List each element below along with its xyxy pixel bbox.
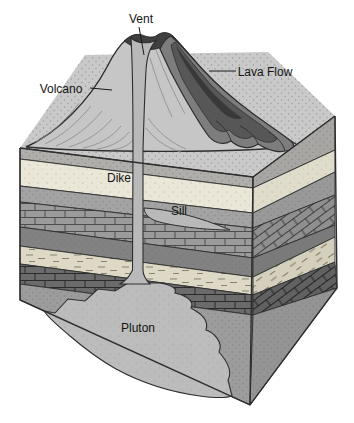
- vent-label: Vent: [129, 12, 154, 26]
- volcano-diagram: Vent Lava Flow Volcano Dike Sill Pluton: [0, 0, 354, 423]
- dike-label: Dike: [107, 171, 131, 185]
- diagram-canvas: Vent Lava Flow Volcano Dike Sill Pluton: [0, 0, 354, 423]
- volcano-label: Volcano: [40, 82, 83, 96]
- sill-label: Sill: [171, 204, 187, 218]
- pluton-label: Pluton: [121, 321, 155, 335]
- lava-flow-label: Lava Flow: [238, 65, 293, 79]
